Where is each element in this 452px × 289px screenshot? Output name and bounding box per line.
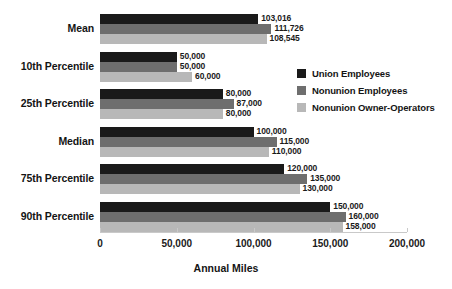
bar-row: 120,000 bbox=[100, 164, 407, 174]
legend-swatch bbox=[297, 86, 306, 95]
bar-value-label: 130,000 bbox=[303, 183, 333, 194]
bar-group: 120,000135,000130,000 bbox=[100, 164, 407, 194]
category-label: 75th Percentile bbox=[0, 172, 94, 184]
x-axis-tick-label: 150,000 bbox=[312, 238, 348, 249]
bar bbox=[100, 202, 330, 212]
category-label: 25th Percentile bbox=[0, 97, 94, 109]
plot-area: 103,016111,726108,54550,00050,00060,0008… bbox=[100, 10, 407, 232]
x-axis-tick bbox=[100, 228, 101, 232]
bar bbox=[100, 89, 223, 99]
x-axis-tick-label: 50,000 bbox=[161, 238, 192, 249]
bar bbox=[100, 34, 267, 44]
bar bbox=[100, 72, 192, 82]
bar-row: 130,000 bbox=[100, 184, 407, 194]
bar bbox=[100, 14, 258, 24]
bar bbox=[100, 147, 269, 157]
bar-chart: Mean10th Percentile25th PercentileMedian… bbox=[0, 0, 452, 289]
x-axis-title: Annual Miles bbox=[0, 262, 452, 274]
bar-row: 135,000 bbox=[100, 174, 407, 184]
bar-group: 100,000115,000110,000 bbox=[100, 127, 407, 157]
bar bbox=[100, 184, 300, 194]
bar-row: 50,000 bbox=[100, 52, 407, 62]
legend-swatch bbox=[297, 69, 306, 78]
bar-row: 111,726 bbox=[100, 24, 407, 34]
x-axis-tick bbox=[330, 228, 331, 232]
legend-label: Nonunion Owner-Operators bbox=[312, 102, 435, 113]
bar-value-label: 60,000 bbox=[195, 71, 220, 82]
legend-label: Nonunion Employees bbox=[312, 85, 407, 96]
bar bbox=[100, 24, 271, 34]
bar-value-label: 80,000 bbox=[226, 108, 251, 119]
bar-row: 108,545 bbox=[100, 34, 407, 44]
bar bbox=[100, 127, 254, 137]
x-axis-tick-label: 0 bbox=[97, 238, 103, 249]
bar-group: 103,016111,726108,545 bbox=[100, 14, 407, 44]
bar-value-label: 158,000 bbox=[346, 221, 376, 232]
category-label: Median bbox=[0, 135, 94, 147]
x-axis-line bbox=[100, 232, 407, 233]
x-axis-tick bbox=[254, 228, 255, 232]
x-axis-tick bbox=[177, 228, 178, 232]
bar bbox=[100, 174, 307, 184]
bar-value-label: 110,000 bbox=[272, 146, 302, 157]
bar-row: 103,016 bbox=[100, 14, 407, 24]
bar-value-label: 108,545 bbox=[270, 33, 300, 44]
bar bbox=[100, 109, 223, 119]
bar bbox=[100, 222, 343, 232]
legend: Union EmployeesNonunion EmployeesNonunio… bbox=[297, 66, 435, 117]
bar-group: 150,000160,000158,000 bbox=[100, 202, 407, 232]
category-label: 10th Percentile bbox=[0, 60, 94, 72]
bar bbox=[100, 212, 346, 222]
bar bbox=[100, 99, 234, 109]
category-label: 90th Percentile bbox=[0, 210, 94, 222]
legend-item: Nonunion Owner-Operators bbox=[297, 100, 435, 115]
legend-item: Union Employees bbox=[297, 66, 435, 81]
legend-item: Nonunion Employees bbox=[297, 83, 435, 98]
bar bbox=[100, 137, 277, 147]
legend-swatch bbox=[297, 103, 306, 112]
x-axis-tick bbox=[407, 228, 408, 232]
x-axis-tick-label: 100,000 bbox=[235, 238, 271, 249]
bar bbox=[100, 164, 284, 174]
bar-row: 100,000 bbox=[100, 127, 407, 137]
category-label: Mean bbox=[0, 22, 94, 34]
bar-row: 110,000 bbox=[100, 147, 407, 157]
bar-row: 115,000 bbox=[100, 137, 407, 147]
x-axis-tick-label: 200,000 bbox=[389, 238, 425, 249]
bar bbox=[100, 52, 177, 62]
legend-label: Union Employees bbox=[312, 68, 390, 79]
bar bbox=[100, 62, 177, 72]
